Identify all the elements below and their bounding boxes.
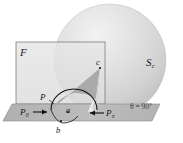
label-sphere-subscript: c	[152, 63, 155, 70]
label-point-a: a	[66, 106, 70, 115]
apex-point-c	[99, 67, 101, 69]
label-apex-c: c	[96, 58, 100, 67]
point-b-dot	[60, 120, 62, 122]
label-point-p: P	[40, 93, 46, 102]
label-p-zero: P0	[20, 108, 28, 118]
label-sphere-sc: Sc	[146, 57, 155, 70]
label-p-zero-base: P	[20, 107, 26, 117]
label-p-pi: Pπ	[106, 109, 114, 119]
label-p-pi-subscript: π	[112, 114, 115, 120]
label-sphere-s: S	[146, 56, 152, 68]
label-p-zero-subscript: 0	[26, 113, 29, 119]
label-p-pi-base: P	[106, 108, 112, 118]
figure-canvas	[0, 0, 183, 143]
label-plane-F: F	[20, 47, 27, 58]
geometric-figure: F Sc c P a b P0 Pπ θ = 90°	[0, 0, 183, 143]
label-point-b: b	[56, 126, 60, 135]
label-theta-angle: θ = 90°	[130, 103, 152, 111]
